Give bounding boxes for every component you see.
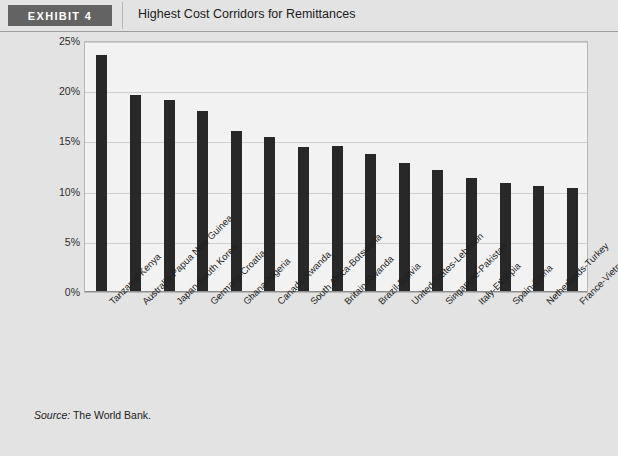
bar <box>164 100 175 291</box>
bar <box>96 55 107 291</box>
x-axis-label: Italy-Ethiopia <box>476 299 484 307</box>
y-tick-label: 10% <box>40 186 80 198</box>
y-tick-label: 0% <box>40 286 80 298</box>
chart-panel: 0%5%10%15%20%25% Tanzania-KenyaAustralia… <box>0 32 618 438</box>
exhibit-header: EXHIBIT 4 Highest Cost Corridors for Rem… <box>0 0 618 32</box>
x-axis-label: South Africa-Botswana <box>308 299 316 307</box>
source-text: The World Bank. <box>70 409 151 421</box>
x-axis-label: Australia-Papua New Guinea <box>140 299 148 307</box>
x-axis-label: France-Vietnam <box>577 299 585 307</box>
gridline <box>85 92 587 93</box>
gridline <box>85 42 587 43</box>
y-tick-label: 15% <box>40 135 80 147</box>
x-axis-label: Netherlands-Turkey <box>544 299 552 307</box>
header-divider <box>122 2 123 29</box>
x-axis-label: Canada-Rwanda <box>275 299 283 307</box>
x-axis-label: Tanzania-Kenya <box>107 299 115 307</box>
page-title: Highest Cost Corridors for Remittances <box>138 7 355 21</box>
y-tick-label: 20% <box>40 85 80 97</box>
exhibit-badge: EXHIBIT 4 <box>8 5 112 26</box>
gridline <box>85 142 587 143</box>
x-axis-label: Ghana-Nigeria <box>241 299 249 307</box>
x-axis-label: Britain-Rwanda <box>342 299 350 307</box>
x-axis-label: Germany-Croatia <box>208 299 216 307</box>
x-axis-label: Spain-China <box>510 299 518 307</box>
x-axis-label: United States-Lebanon <box>409 299 417 307</box>
y-tick-label: 5% <box>40 236 80 248</box>
bar <box>130 95 141 291</box>
x-axis-label: Singapore-Pakistan <box>443 299 451 307</box>
x-axis-label: Brazil-Bolivia <box>376 299 384 307</box>
x-axis-label: Japan-South Korea <box>174 299 182 307</box>
source-note: Source: The World Bank. <box>34 409 151 421</box>
y-tick-label: 25% <box>40 35 80 47</box>
bar <box>197 111 208 291</box>
source-keyword: Source: <box>34 409 70 421</box>
y-axis: 0%5%10%15%20%25% <box>36 41 80 293</box>
